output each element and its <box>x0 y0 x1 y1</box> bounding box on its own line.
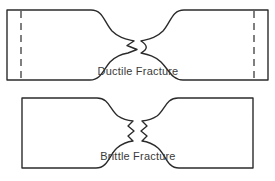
ductile-fracture-label: Ductile Fracture <box>98 65 179 77</box>
fracture-diagram-canvas: Ductile Fracture Brittle Fracture <box>0 0 275 181</box>
brittle-fracture-label: Brittle Fracture <box>100 150 175 162</box>
fracture-diagram: Ductile Fracture Brittle Fracture <box>0 0 275 181</box>
specimen-ductile: Ductile Fracture <box>7 10 268 80</box>
specimen-brittle: Brittle Fracture <box>22 98 253 168</box>
